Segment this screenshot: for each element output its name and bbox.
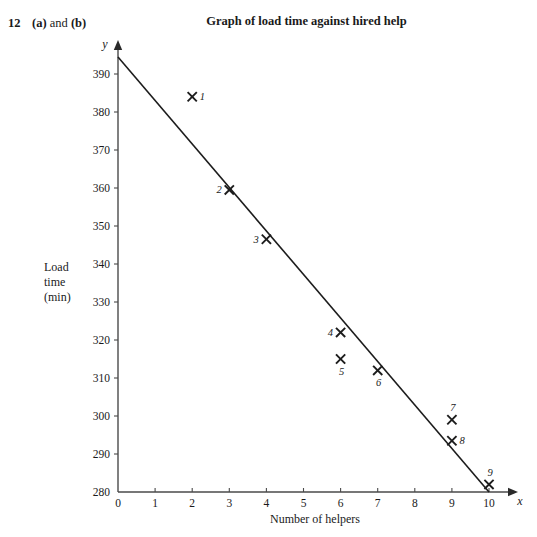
y-axis-symbol: y	[101, 37, 108, 51]
y-axis-label-line-2: time	[44, 275, 104, 290]
data-point-label: 8	[460, 435, 466, 446]
y-axis-tick-label: 310	[93, 372, 111, 384]
x-axis-symbol: x	[516, 494, 523, 508]
data-point-label: 9	[487, 467, 493, 478]
y-axis-tick-label: 290	[93, 448, 111, 460]
line-of-best-fit	[118, 57, 489, 492]
x-axis-tick-label: 10	[483, 497, 495, 509]
x-axis-tick-label: 4	[264, 497, 270, 509]
y-axis-arrow	[114, 40, 122, 50]
y-axis-tick-label: 280	[93, 486, 111, 498]
y-axis-label-line-3: (min)	[44, 290, 104, 305]
data-point-label: 2	[216, 184, 222, 195]
y-axis-tick-label: 300	[93, 410, 111, 422]
x-axis-tick-label: 3	[226, 497, 232, 509]
x-axis-tick-label: 6	[338, 497, 344, 509]
y-axis-tick-label: 390	[93, 68, 111, 80]
data-point-label: 6	[376, 377, 382, 388]
y-axis-label: Load time (min)	[44, 260, 104, 305]
x-axis-label: Number of helpers	[200, 512, 430, 527]
x-axis-tick-label: 2	[189, 497, 195, 509]
y-axis-tick-label: 370	[93, 144, 111, 156]
worksheet-page: 12 (a) and (b) Graph of load time agains…	[0, 0, 537, 537]
y-axis-tick-label: 380	[93, 106, 111, 118]
x-axis-tick-label: 7	[375, 497, 381, 509]
data-point-label: 3	[253, 234, 259, 245]
x-axis-tick-label: 9	[449, 497, 455, 509]
data-point-label: 5	[339, 366, 344, 377]
y-axis-label-line-1: Load	[44, 260, 104, 275]
data-point-label: 1	[200, 91, 205, 102]
y-axis-tick-label: 350	[93, 220, 111, 232]
x-axis-tick-label: 0	[115, 497, 121, 509]
x-axis-tick-label: 8	[412, 497, 418, 509]
x-axis-tick-label: 1	[152, 497, 158, 509]
data-point-label: 4	[328, 327, 334, 338]
x-axis-tick-label: 5	[301, 497, 307, 509]
data-point-label: 7	[450, 402, 456, 413]
y-axis-tick-label: 320	[93, 334, 111, 346]
y-axis-tick-label: 360	[93, 182, 111, 194]
